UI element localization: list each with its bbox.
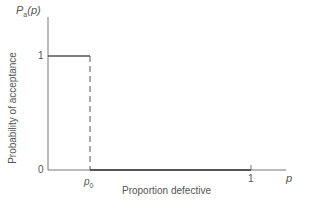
y-symbol-arg: (p) bbox=[27, 4, 40, 16]
x-axis-symbol: p bbox=[286, 172, 292, 184]
oc-curve-chart bbox=[0, 0, 309, 208]
y-axis-symbol: Pa(p) bbox=[16, 4, 41, 18]
y-tick-1-label: 1 bbox=[38, 50, 44, 61]
y-axis-label: Probability of acceptance bbox=[7, 52, 18, 164]
x-tick-1-label: 1 bbox=[248, 173, 254, 184]
y-tick-0-label: 0 bbox=[38, 164, 44, 175]
x-tick-p0-label: p0 bbox=[84, 176, 93, 189]
p0-sub: 0 bbox=[90, 182, 94, 189]
x-axis-label: Proportion defective bbox=[122, 185, 211, 196]
